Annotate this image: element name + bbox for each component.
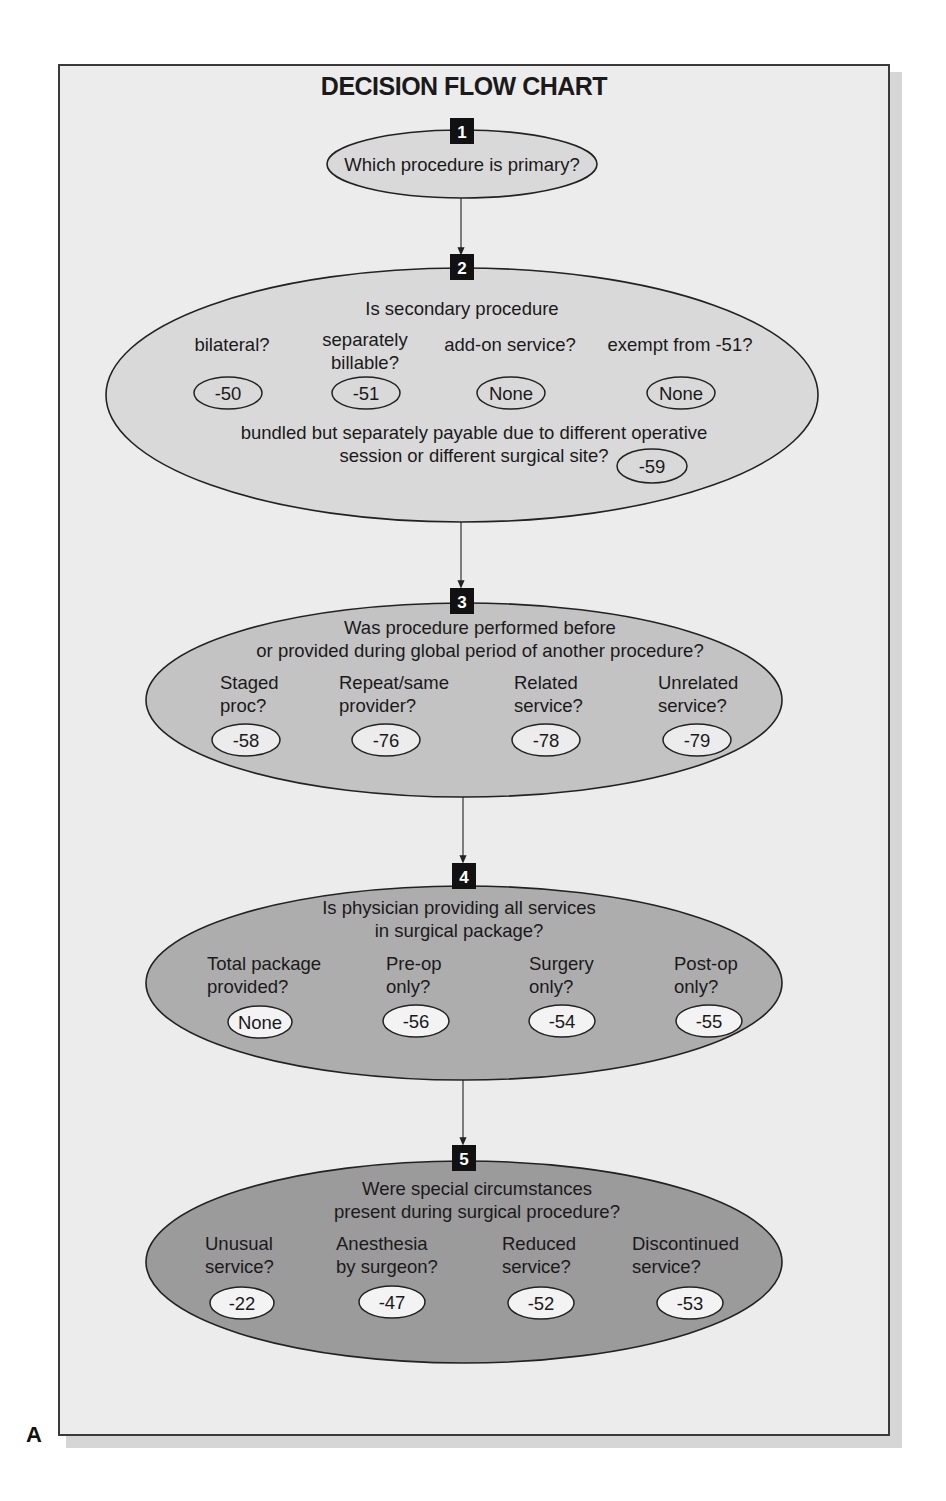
modifier-code-text: -51 xyxy=(353,383,380,404)
step-4-option-label: Total package xyxy=(207,953,321,974)
modifier-code-text: -76 xyxy=(373,730,400,751)
step-3: 3 Was procedure performed before or prov… xyxy=(146,588,782,797)
step-2-number: 2 xyxy=(457,259,466,278)
step-4-question: in surgical package? xyxy=(375,920,544,941)
step-5-number: 5 xyxy=(459,1150,468,1169)
modifier-code-text: -52 xyxy=(528,1293,555,1314)
modifier-code-text: None xyxy=(489,383,533,404)
step-5-question: Were special circumstances xyxy=(362,1178,592,1199)
step-5-option-label: Discontinued xyxy=(632,1233,739,1254)
step-2-extra-label: bundled but separately payable due to di… xyxy=(241,422,708,443)
modifier-code-text: -78 xyxy=(533,730,560,751)
step-2-option-label: add-on service? xyxy=(444,334,576,355)
step-3-question: or provided during global period of anot… xyxy=(256,640,703,661)
step-4-question: Is physician providing all services xyxy=(322,897,596,918)
modifier-code-text: -56 xyxy=(403,1011,430,1032)
step-5-option-label: service? xyxy=(205,1256,274,1277)
modifier-code-text: -79 xyxy=(684,730,711,751)
step-3-option-label: service? xyxy=(514,695,583,716)
step-5-option-label: Anesthesia xyxy=(336,1233,428,1254)
modifier-code-text: -53 xyxy=(677,1293,704,1314)
step-2-question: Is secondary procedure xyxy=(365,298,558,319)
step-4-option-label: only? xyxy=(674,976,718,997)
modifier-code-text: None xyxy=(238,1012,282,1033)
step-5: 5 Were special circumstances present dur… xyxy=(146,1145,782,1363)
step-4-option-label: Post-op xyxy=(674,953,738,974)
step-5-option-label: service? xyxy=(502,1256,571,1277)
modifier-code-text: -59 xyxy=(639,456,666,477)
step-2-extra-label: session or different surgical site? xyxy=(339,445,608,466)
step-5-option-label: service? xyxy=(632,1256,701,1277)
step-3-option-label: service? xyxy=(658,695,727,716)
modifier-code-text: -58 xyxy=(233,730,260,751)
modifier-code-text: -55 xyxy=(696,1011,723,1032)
step-4: 4 Is physician providing all services in… xyxy=(146,863,782,1080)
step-4-option-label: only? xyxy=(386,976,430,997)
step-3-option-label: proc? xyxy=(220,695,266,716)
modifier-code-text: -50 xyxy=(215,383,242,404)
step-3-option-label: Related xyxy=(514,672,578,693)
flow-chart: DECISION FLOW CHART 1 Which procedure is… xyxy=(0,0,946,1501)
step-3-option-label: Repeat/same xyxy=(339,672,449,693)
step-3-option-label: Staged xyxy=(220,672,279,693)
step-2-option-label: billable? xyxy=(331,352,399,373)
modifier-code-text: None xyxy=(659,383,703,404)
step-5-option-label: Unusual xyxy=(205,1233,273,1254)
step-3-number: 3 xyxy=(457,593,466,612)
modifier-code-text: -54 xyxy=(549,1011,576,1032)
step-1-number: 1 xyxy=(457,123,466,142)
step-1: 1 Which procedure is primary? xyxy=(327,118,597,198)
step-3-option-label: Unrelated xyxy=(658,672,738,693)
step-4-option-label: only? xyxy=(529,976,573,997)
step-1-question: Which procedure is primary? xyxy=(344,154,579,175)
step-2-option-label: bilateral? xyxy=(194,334,269,355)
step-4-number: 4 xyxy=(459,868,469,887)
step-5-option-label: Reduced xyxy=(502,1233,576,1254)
step-3-question: Was procedure performed before xyxy=(344,617,616,638)
step-2-option-label: exempt from -51? xyxy=(608,334,753,355)
step-5-question: present during surgical procedure? xyxy=(334,1201,620,1222)
step-4-option-label: Surgery xyxy=(529,953,595,974)
step-3-option-label: provider? xyxy=(339,695,416,716)
chart-title: DECISION FLOW CHART xyxy=(321,72,608,100)
modifier-code-text: -22 xyxy=(229,1293,256,1314)
modifier-code-text: -47 xyxy=(379,1292,406,1313)
step-2: 2 Is secondary procedure bilateral? sepa… xyxy=(106,254,818,522)
step-4-option-label: Pre-op xyxy=(386,953,442,974)
step-4-option-label: provided? xyxy=(207,976,288,997)
step-5-option-label: by surgeon? xyxy=(336,1256,438,1277)
step-2-option-label: separately xyxy=(322,329,408,350)
